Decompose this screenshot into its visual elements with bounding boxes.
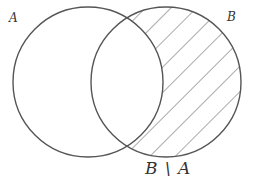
set-a-label: A bbox=[9, 11, 18, 25]
difference-label: B \ A bbox=[145, 158, 191, 178]
set-b-label: B bbox=[227, 10, 236, 24]
venn-diagram bbox=[0, 0, 256, 181]
